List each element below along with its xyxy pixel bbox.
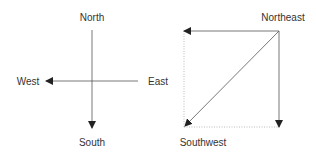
vector-diagram: North West East South Northeast Southwes… <box>0 0 316 152</box>
label-northeast: Northeast <box>261 12 304 23</box>
southwest-resultant-arrow <box>185 31 279 126</box>
label-southwest: Southwest <box>180 137 227 148</box>
label-east: East <box>148 76 168 87</box>
label-north: North <box>80 12 104 23</box>
label-west: West <box>17 76 40 87</box>
label-south: South <box>79 137 105 148</box>
